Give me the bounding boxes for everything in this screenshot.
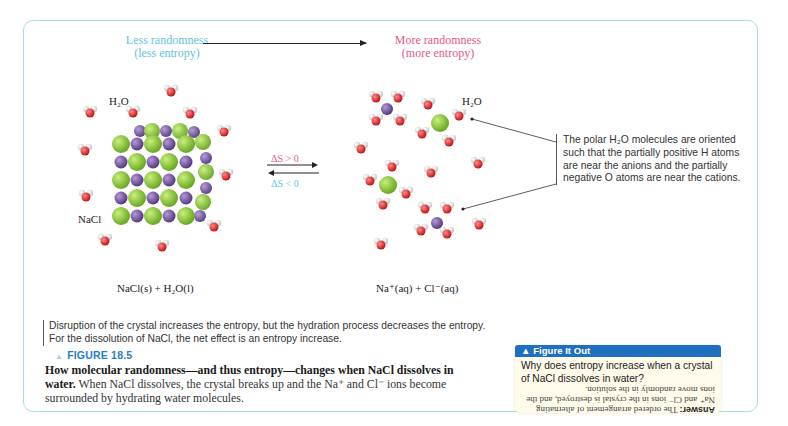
- triangle-marker-icon: ▲: [55, 352, 63, 361]
- figure-it-out-header: ▲ Figure It Out: [515, 345, 721, 357]
- nacl-label: NaCl: [78, 213, 101, 225]
- figure-number-text: FIGURE 18.5: [67, 349, 132, 361]
- entropy-note: Disruption of the crystal increases the …: [43, 320, 489, 346]
- equilibrium-arrows: [267, 162, 319, 176]
- h2o-label-right: H₂O: [462, 95, 482, 107]
- delta-s-positive: ΔS > 0: [271, 153, 299, 164]
- reactants-equation: NaCl(s) + H₂O(l): [117, 282, 194, 294]
- h2o-label-left: H₂O: [109, 95, 129, 107]
- products-equation: Na⁺(aq) + Cl⁻(aq): [376, 282, 458, 295]
- caption-body: When NaCl dissolves, the crystal breaks …: [45, 377, 446, 405]
- figure-it-out-question: Why does entropy increase when a crystal…: [515, 357, 721, 385]
- answer-label: Answer:: [679, 405, 715, 415]
- figure-number: ▲FIGURE 18.5: [55, 349, 132, 361]
- hydration-callout: The polar H₂O molecules are oriented suc…: [556, 134, 741, 185]
- figure-it-out-answer-inverted: Answer: The ordered arrangement of alter…: [515, 385, 721, 416]
- hydrated-ions: [363, 91, 466, 239]
- delta-s-negative: ΔS < 0: [271, 178, 299, 189]
- figure-it-out-box: ▲ Figure It Out Why does entropy increas…: [515, 345, 721, 413]
- figure-caption: How molecular randomness—and thus entrop…: [45, 364, 485, 405]
- nacl-crystal: [112, 123, 214, 225]
